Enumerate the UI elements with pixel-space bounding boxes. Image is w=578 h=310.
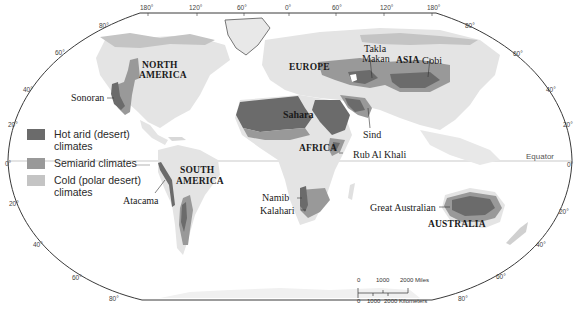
scale-km-0: 0: [357, 298, 360, 304]
lat-left-80s: 80°: [109, 296, 119, 303]
lon-label-180w: 180°: [140, 5, 153, 12]
legend-label-cold-polar: Cold (polar desert) climates: [54, 174, 141, 198]
lat-left-40s: 40°: [33, 242, 43, 249]
legend-swatch-hot-arid: [27, 129, 45, 140]
label-gobi: Gobi: [422, 56, 442, 66]
label-namib: Namib: [262, 193, 289, 203]
lon-label-120w: 120°: [189, 5, 202, 12]
legend-label-semiarid: Semiarid climates: [54, 157, 137, 169]
legend-item-hot-arid: Hot arid (desert) climates: [27, 128, 157, 152]
lon-label-0: 0°: [285, 5, 291, 12]
legend-label-hot-arid: Hot arid (desert) climates: [54, 128, 130, 152]
lat-right-0: 0°: [567, 162, 573, 169]
legend-swatch-cold-polar: [27, 175, 45, 186]
label-europe: EUROPE: [289, 63, 330, 73]
label-sahara: Sahara: [283, 110, 314, 120]
lon-label-180e: 180°: [427, 5, 440, 12]
label-south-america-1: SOUTH: [180, 166, 214, 176]
lat-left-80n: 80°: [99, 23, 109, 30]
scale-miles-1000: 1000: [376, 277, 389, 283]
label-sonoran: Sonoran: [71, 93, 104, 103]
lat-left-40n: 40°: [23, 87, 33, 94]
lat-left-60s: 60°: [72, 275, 82, 282]
scale-miles-2000: 2000 Miles: [400, 277, 429, 283]
lat-left-20s: 20°: [9, 201, 19, 208]
lat-right-20s: 20°: [559, 209, 569, 216]
scale-km-2000: 2000 Kilometers: [384, 298, 427, 304]
scale-km-1000: 1000: [367, 298, 380, 304]
legend-swatch-semiarid: [27, 158, 45, 169]
lat-left-60n: 60°: [55, 50, 65, 57]
lat-right-40s: 40°: [536, 242, 546, 249]
scale-bar: 0 1000 2000 Miles 0 1000 2000 Kilometers: [357, 268, 457, 304]
label-australia: AUSTRALIA: [428, 220, 486, 230]
label-rub-al-khali: Rub Al Khali: [353, 150, 406, 160]
legend-item-cold-polar: Cold (polar desert) climates: [27, 174, 157, 198]
label-asia: ASIA: [396, 56, 420, 66]
label-south-america-2: AMERICA: [176, 177, 224, 187]
lat-right-40n: 40°: [546, 87, 556, 94]
lat-right-60s: 60°: [496, 274, 506, 281]
legend-item-semiarid: Semiarid climates: [27, 157, 157, 169]
lat-right-60n: 60°: [513, 51, 523, 58]
lat-right-80s: 80°: [458, 296, 468, 303]
equator-label: Equator: [526, 152, 554, 161]
lat-left-20n: 20°: [8, 122, 18, 129]
legend: Hot arid (desert) climates Semiarid clim…: [27, 128, 157, 203]
label-sind: Sind: [363, 130, 381, 140]
label-kalahari: Kalahari: [260, 206, 294, 216]
lat-left-0: 0°: [5, 161, 11, 168]
lat-right-80n: 80°: [465, 23, 475, 30]
scale-miles-0: 0: [357, 277, 360, 283]
lon-label-60e: 60°: [332, 5, 342, 12]
lon-label-60w: 60°: [237, 5, 247, 12]
label-north-america-2: AMERICA: [139, 71, 187, 81]
lat-right-20n: 20°: [563, 122, 573, 129]
label-africa: AFRICA: [299, 144, 337, 154]
lon-label-120e: 120°: [380, 5, 393, 12]
label-great-australian: Great Australian: [370, 203, 436, 213]
label-takla-makan-2: Makan: [362, 54, 390, 64]
